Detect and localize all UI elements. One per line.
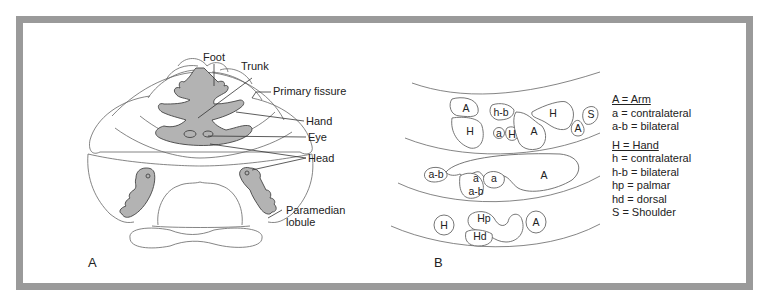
blob-label: Hp <box>477 212 491 224</box>
blob-label: a-b <box>428 168 443 180</box>
blob-label: A <box>540 169 547 181</box>
label-hand: Hand <box>306 115 332 127</box>
legend-item: h = contralateral <box>612 152 691 166</box>
paramedian-homunculi <box>120 167 276 217</box>
legend-hand-header: H = Hand <box>612 139 691 153</box>
legend-arm-header: A = Arm <box>612 93 691 107</box>
legend-item: hd = dorsal <box>612 193 691 207</box>
blob-label: a <box>496 127 502 139</box>
label-foot: Foot <box>203 51 225 63</box>
blob-label: h-b <box>493 106 508 118</box>
label-paramedian: Paramedian <box>286 204 345 216</box>
blob-label: H <box>466 125 474 137</box>
blob-label: A <box>574 122 581 134</box>
blob-label: S <box>587 108 594 120</box>
label-eye: Eye <box>308 131 327 143</box>
panel-b-regions <box>424 98 598 246</box>
blob-label: a <box>473 172 479 184</box>
legend-item: a = contralateral <box>612 107 691 121</box>
label-primary-fissure: Primary fissure <box>273 85 346 97</box>
legend-item: S = Shoulder <box>612 206 691 220</box>
blob-label: H <box>508 128 516 140</box>
panel-label-b: B <box>434 255 443 270</box>
legend-item: hp = palmar <box>612 179 691 193</box>
blob-label: H <box>549 107 557 119</box>
eye-left <box>184 131 196 138</box>
blob-label: A <box>462 102 469 114</box>
legend: A = Arm a = contralateral a-b = bilatera… <box>612 93 691 220</box>
blob-label: a <box>491 172 497 184</box>
legend-item: a-b = bilateral <box>612 120 691 134</box>
legend-item: h-b = bilateral <box>612 166 691 180</box>
label-lobule: lobule <box>286 216 315 228</box>
label-trunk: Trunk <box>241 60 269 72</box>
blob-label: A <box>530 125 537 137</box>
blob-label: A <box>532 216 539 228</box>
blob-label: a-b <box>468 185 483 197</box>
label-head: Head <box>308 152 334 164</box>
panel-label-a: A <box>88 255 97 270</box>
blob-label: H <box>440 219 448 231</box>
blob-label: Hd <box>473 230 487 242</box>
